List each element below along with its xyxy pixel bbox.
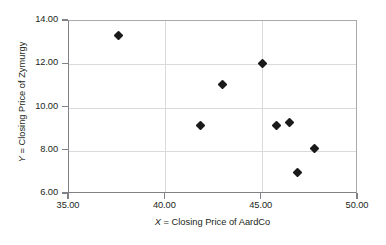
x-axis-tick-label: 50.00 (327, 200, 386, 210)
x-axis-title-text: = Closing Price of AardCo (161, 217, 270, 227)
x-axis-tick (164, 193, 165, 199)
y-axis-tick-label: 8.00 (0, 144, 58, 154)
x-axis-tick-label: 35.00 (38, 200, 98, 210)
x-axis-tick (67, 193, 68, 199)
gridline-horizontal (69, 64, 356, 65)
x-axis-title: X = Closing Price of AardCo (68, 217, 357, 227)
x-axis-tick-label: 40.00 (134, 200, 194, 210)
y-axis-tick (62, 106, 68, 107)
plot-area (68, 20, 357, 193)
y-axis-title-text: = Closing Price of Zymurgy (17, 42, 27, 156)
scatter-chart: 6.008.0010.0012.0014.0035.0040.0045.0050… (0, 0, 386, 245)
gridline-horizontal (69, 108, 356, 109)
x-axis-tick-label: 45.00 (231, 200, 291, 210)
x-axis-tick (260, 193, 261, 199)
y-axis-title: Y = Closing Price of Zymurgy (17, 7, 27, 197)
y-axis-tick (62, 19, 68, 20)
y-axis-tick-label: 12.00 (0, 57, 58, 67)
y-axis-tick (62, 149, 68, 150)
gridline-vertical (262, 21, 263, 192)
y-axis-tick-label: 10.00 (0, 101, 58, 111)
y-axis-tick-label: 14.00 (0, 14, 58, 24)
y-axis-tick (62, 63, 68, 64)
y-axis-tick-label: 6.00 (0, 187, 58, 197)
x-axis-tick (356, 193, 357, 199)
y-axis-variable: Y (17, 156, 27, 162)
gridline-vertical (165, 21, 166, 192)
